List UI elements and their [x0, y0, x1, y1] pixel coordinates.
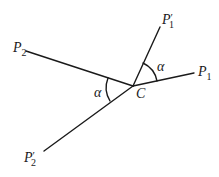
label-alpha-right: α [157, 59, 165, 74]
label-p1: P1 [197, 64, 212, 82]
segment-c-p2 [26, 51, 133, 86]
segment-c-p2-prime [44, 86, 133, 151]
label-alpha-left: α [94, 85, 102, 100]
angle-arc-right [143, 63, 157, 81]
label-p1-prime: P′1 [161, 11, 174, 30]
rotation-diagram: P2 P′1 P1 P′2 C α α [0, 0, 219, 177]
label-p2-prime: P′2 [23, 149, 36, 168]
label-p2: P2 [12, 40, 27, 58]
segment-c-p1 [133, 73, 194, 86]
label-c: C [136, 86, 146, 101]
angle-arc-left [106, 78, 110, 101]
diagram-canvas: P2 P′1 P1 P′2 C α α [0, 0, 219, 177]
